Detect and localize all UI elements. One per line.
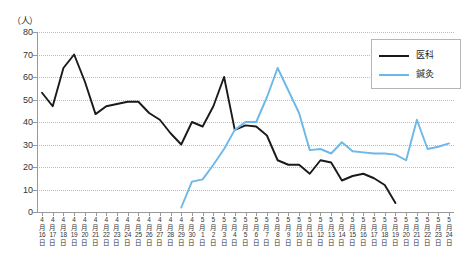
legend-item-1[interactable]: 鍼灸: [372, 65, 460, 84]
legend-item-0[interactable]: 医科: [372, 46, 460, 65]
gridline-10: [37, 190, 454, 191]
y-tick-mark-10: [33, 190, 37, 191]
y-tick-mark-20: [33, 167, 37, 168]
x-tick-label-38: 5月24日: [441, 216, 457, 247]
y-tick-mark-80: [33, 32, 37, 33]
y-tick-mark-30: [33, 145, 37, 146]
y-tick-label-70: 70: [3, 50, 33, 60]
legend-swatch-shinkyu: [379, 74, 409, 76]
gridline-30: [37, 145, 454, 146]
y-axis-line: [37, 32, 38, 212]
legend-label-ika: 医科: [416, 51, 434, 60]
y-tick-label-50: 50: [3, 95, 33, 105]
y-tick-mark-0: [33, 212, 37, 213]
x-axis-tick-labels: 4月16日4月17日4月18日4月19日4月20日4月21日4月22日4月23日…: [0, 216, 473, 276]
y-tick-label-60: 60: [3, 72, 33, 82]
gridline-40: [37, 122, 454, 123]
y-tick-mark-40: [33, 122, 37, 123]
gridline-20: [37, 167, 454, 168]
legend-swatch-ika: [379, 55, 409, 57]
y-tick-label-20: 20: [3, 162, 33, 172]
gridline-80: [37, 32, 454, 33]
y-tick-label-30: 30: [3, 140, 33, 150]
y-tick-label-10: 10: [3, 185, 33, 195]
gridline-50: [37, 100, 454, 101]
y-tick-label-40: 40: [3, 117, 33, 127]
line-chart: （人） 01020304050607080 4月16日4月17日4月18日4月1…: [0, 0, 473, 276]
y-tick-label-80: 80: [3, 27, 33, 37]
y-tick-mark-70: [33, 55, 37, 56]
y-tick-mark-50: [33, 100, 37, 101]
y-tick-mark-60: [33, 77, 37, 78]
legend: 医科 鍼灸: [371, 39, 461, 89]
legend-label-shinkyu: 鍼灸: [416, 70, 434, 79]
